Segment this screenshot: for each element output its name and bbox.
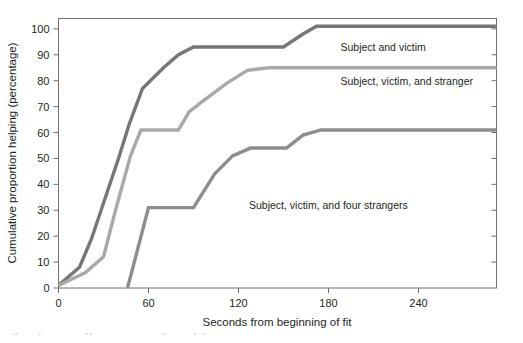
y-tick-label: 70 [37,101,49,113]
series-label-1: Subject, victim, and stranger [341,75,474,87]
y-tick-label: 50 [37,152,49,164]
y-tick-label: 20 [37,230,49,242]
x-axis-tick-labels: 060120180240 [55,297,427,309]
x-tick-label: 180 [319,297,337,309]
line-chart: 0102030405060708090100 060120180240 Subj… [0,0,523,343]
y-tick-label: 10 [37,256,49,268]
y-tick-label: 0 [43,282,49,294]
x-axis-title: Seconds from beginning of fit [203,316,353,328]
series-label-0: Subject and victim [341,41,426,53]
cropped-caption-strip: Figure caption text cropped at the botto… [0,333,523,343]
y-axis-ticks [54,29,59,288]
x-tick-label: 0 [55,297,61,309]
x-tick-label: 60 [142,297,154,309]
y-tick-label: 90 [37,49,49,61]
cropped-caption-text: Figure caption text cropped at the botto… [6,333,518,335]
series-label-2: Subject, victim, and four strangers [249,199,408,211]
y-tick-label: 40 [37,178,49,190]
plot-area-border [59,19,497,289]
y-axis-tick-labels: 0102030405060708090100 [31,23,49,294]
figure-container: 0102030405060708090100 060120180240 Subj… [0,0,523,343]
x-axis-ticks [59,288,419,293]
y-tick-label: 100 [31,23,49,35]
y-axis-title: Cumulative proportion helping (percentag… [6,42,18,263]
x-tick-label: 240 [409,297,427,309]
y-tick-label: 30 [37,204,49,216]
x-tick-label: 120 [229,297,247,309]
y-tick-label: 80 [37,75,49,87]
y-tick-label: 60 [37,127,49,139]
